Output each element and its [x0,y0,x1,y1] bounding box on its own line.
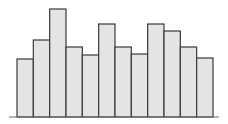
bar-1 [17,59,33,117]
bar-2 [33,40,49,117]
bar-10 [164,31,180,117]
bar-chart [0,0,228,124]
bar-8 [131,54,147,117]
bars-group [17,9,213,117]
bar-5 [82,55,98,117]
bar-9 [148,24,164,117]
bar-12 [197,58,213,117]
bar-4 [66,47,82,117]
bar-6 [99,24,115,117]
bar-11 [180,47,196,117]
bar-7 [115,47,131,117]
bar-3 [50,9,66,117]
